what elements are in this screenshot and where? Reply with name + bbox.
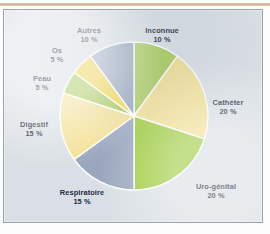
pie-label-inconnue-name: Inconnue [145,26,179,35]
pie-label-os-name: Os [52,46,62,55]
pie-label-inconnue: Inconnue 10 % [132,26,192,44]
pie-label-respiratoire: Respiratoire 15 % [48,188,116,206]
pie-label-uro-genital-value: 20 % [180,191,252,200]
pie-label-os-value: 5 % [34,55,80,64]
pie-label-digestif-value: 15 % [6,129,62,138]
pie-label-catheter-name: Cathéter [213,98,244,107]
pie-label-peau: Peau 5 % [18,74,66,92]
pie-label-autres-name: Autres [77,26,101,35]
pie-label-uro-genital: Uro-génital 20 % [180,182,252,200]
pie-label-catheter: Cathéter 20 % [200,98,256,116]
pie-label-peau-name: Peau [33,74,51,83]
top-rule-divider [0,3,270,6]
pie-label-digestif-name: Digestif [20,120,48,129]
pie-label-digestif: Digestif 15 % [6,120,62,138]
pie-label-peau-value: 5 % [18,83,66,92]
pie-label-respiratoire-value: 15 % [48,197,116,206]
figure-frame: Autres 10 % Inconnue 10 % Os 5 % Peau 5 … [3,9,263,223]
pie-slice-group [60,42,208,190]
pie-label-respiratoire-name: Respiratoire [60,188,104,197]
pie-label-catheter-value: 20 % [200,107,256,116]
pie-label-autres-value: 10 % [62,35,116,44]
pie-label-autres: Autres 10 % [62,26,116,44]
pie-chart: Autres 10 % Inconnue 10 % Os 5 % Peau 5 … [4,10,260,220]
pie-label-inconnue-value: 10 % [132,35,192,44]
pie-label-uro-genital-name: Uro-génital [196,182,236,191]
pie-label-os: Os 5 % [34,46,80,64]
figure-page: Autres 10 % Inconnue 10 % Os 5 % Peau 5 … [0,0,270,234]
